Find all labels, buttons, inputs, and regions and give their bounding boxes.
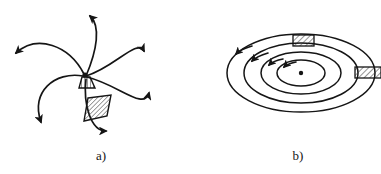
panel-a-label: a) (96, 148, 106, 163)
panel-b-label: b) (293, 148, 304, 163)
hatch-block-right (355, 67, 381, 78)
figure-svg: a) b) (0, 0, 381, 174)
hatch-block-top (293, 35, 314, 46)
figure-container: a) b) (0, 0, 381, 174)
figure-background (0, 0, 381, 174)
convergence-point (82, 72, 87, 77)
center-dot (299, 71, 303, 75)
